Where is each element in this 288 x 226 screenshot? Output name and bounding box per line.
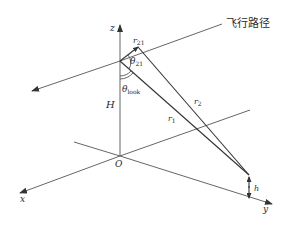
flight-path-line [32, 61, 120, 91]
x-axis-line [20, 156, 120, 193]
r2-line [138, 47, 249, 175]
geometry-diagram: 飞行路径 z x y O H r21 θ21 θlook r1 r2 h [0, 0, 288, 226]
theta21-label: θ21 [130, 56, 143, 67]
x-axis-label: x [20, 194, 25, 204]
r1-line [120, 61, 249, 175]
r2-label: r2 [194, 97, 202, 107]
height-H-label: H [105, 99, 115, 110]
h-label: h [254, 184, 259, 193]
r21-label: r21 [133, 36, 144, 46]
y-axis-back-line [74, 142, 120, 156]
origin-label: O [115, 159, 123, 169]
r1-label: r1 [168, 114, 176, 124]
theta-look-arc-2 [120, 71, 131, 76]
x-axis-back-line [120, 110, 250, 156]
z-axis-label: z [109, 23, 115, 33]
flight-path-label: 飞行路径 [226, 17, 270, 30]
theta-look-label: θlook [122, 84, 141, 95]
y-axis-label: y [262, 204, 269, 214]
